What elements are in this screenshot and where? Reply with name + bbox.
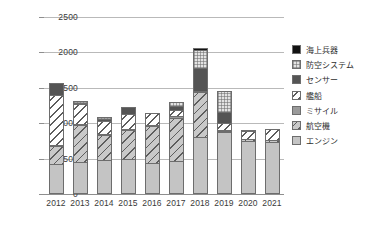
bar-segment-engine: [265, 142, 280, 194]
bar-segment-ship: [121, 114, 136, 129]
x-tick-label: 2016: [142, 198, 161, 208]
bar-column: 2017: [164, 17, 188, 194]
bar-segment-aircraft: [193, 92, 208, 138]
bar-segment-air-defense: [217, 91, 232, 112]
x-tick-label: 2012: [46, 198, 65, 208]
stacked-bar-chart: 2500 2000 1500 1000 500 0 20122013201420…: [0, 0, 368, 229]
legend-item-label: 防空システム: [306, 59, 355, 70]
x-tick-label: 2018: [190, 198, 209, 208]
bar-segment-aircraft: [121, 130, 136, 159]
legend-item-label: 艦船: [306, 90, 322, 101]
stacked-bar: [169, 102, 184, 194]
bar-segment-sensor: [193, 68, 208, 90]
bar-segment-aircraft: [145, 126, 160, 163]
x-axis-line: [44, 194, 284, 195]
bar-column: 2018: [188, 17, 212, 194]
bar-segment-sensor: [217, 112, 232, 123]
legend-swatch-icon: [292, 121, 301, 130]
stacked-bar: [121, 107, 136, 194]
stacked-bar: [97, 117, 112, 194]
legend-swatch-icon: [292, 60, 301, 69]
bar-segment-ship: [97, 121, 112, 134]
legend-item-missile[interactable]: ミサイル: [292, 103, 368, 118]
bar-segment-engine: [121, 159, 136, 194]
bar-segment-engine: [169, 161, 184, 194]
chart-legend: 海上兵器防空システムセンサー艦船ミサイル航空機エンジン: [292, 42, 368, 148]
bar-segment-ship: [145, 113, 160, 125]
bar-segment-engine: [145, 163, 160, 194]
bar-column: 2020: [236, 17, 260, 194]
bar-column: 2019: [212, 17, 236, 194]
legend-item-label: ミサイル: [306, 105, 338, 116]
bar-segment-engine: [193, 137, 208, 194]
bar-segment-aircraft: [97, 135, 112, 160]
legend-swatch-icon: [292, 136, 301, 145]
legend-item-air-defense[interactable]: 防空システム: [292, 57, 368, 72]
legend-swatch-icon: [292, 91, 301, 100]
legend-item-label: センサー: [306, 74, 338, 85]
legend-item-label: 海上兵器: [306, 44, 338, 55]
stacked-bar: [265, 129, 280, 194]
bar-segment-ship: [265, 129, 280, 140]
bar-segment-ship: [241, 131, 256, 139]
legend-item-aircraft[interactable]: 航空機: [292, 118, 368, 133]
bar-segment-engine: [97, 160, 112, 194]
stacked-bar: [145, 113, 160, 194]
bar-column: 2012: [44, 17, 68, 194]
bar-segment-engine: [73, 162, 88, 194]
bar-segment-aircraft: [49, 146, 64, 164]
bars-container: 2012201320142015201620172018201920202021: [44, 17, 284, 194]
x-tick-label: 2013: [70, 198, 89, 208]
bar-segment-ship: [73, 104, 88, 125]
bar-column: 2014: [92, 17, 116, 194]
bar-column: 2015: [116, 17, 140, 194]
legend-item-ship[interactable]: 艦船: [292, 88, 368, 103]
x-tick-label: 2019: [214, 198, 233, 208]
bar-segment-sensor: [121, 107, 136, 114]
bar-column: 2013: [68, 17, 92, 194]
stacked-bar: [73, 101, 88, 194]
legend-swatch-icon: [292, 45, 301, 54]
y-tick-mark: [39, 194, 44, 195]
bar-segment-engine: [241, 141, 256, 194]
bar-segment-aircraft: [169, 118, 184, 162]
x-tick-label: 2017: [166, 198, 185, 208]
legend-item-naval-weapon[interactable]: 海上兵器: [292, 42, 368, 57]
stacked-bar: [49, 83, 64, 194]
x-tick-label: 2021: [262, 198, 281, 208]
legend-swatch-icon: [292, 106, 301, 115]
bar-segment-ship: [217, 123, 232, 130]
x-tick-label: 2020: [238, 198, 257, 208]
bar-segment-engine: [217, 132, 232, 194]
bar-segment-engine: [49, 164, 64, 194]
stacked-bar: [217, 91, 232, 194]
legend-item-engine[interactable]: エンジン: [292, 133, 368, 148]
bar-segment-air-defense: [193, 50, 208, 69]
bar-column: 2016: [140, 17, 164, 194]
bar-column: 2021: [260, 17, 284, 194]
bar-segment-sensor: [49, 83, 64, 95]
legend-item-label: エンジン: [306, 135, 338, 146]
x-tick-label: 2014: [94, 198, 113, 208]
legend-item-label: 航空機: [306, 120, 330, 131]
legend-swatch-icon: [292, 75, 301, 84]
stacked-bar: [241, 130, 256, 194]
bar-segment-aircraft: [73, 125, 88, 162]
x-tick-label: 2015: [118, 198, 137, 208]
legend-item-sensor[interactable]: センサー: [292, 72, 368, 87]
stacked-bar: [193, 48, 208, 194]
bar-segment-ship: [49, 95, 64, 146]
